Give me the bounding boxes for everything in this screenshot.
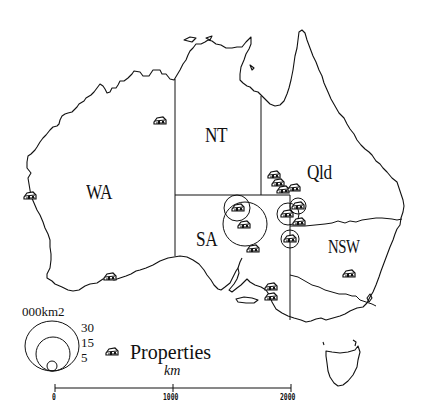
house-icon bbox=[106, 348, 118, 355]
house-icon[interactable] bbox=[238, 221, 250, 228]
state-label-sa: SA bbox=[196, 229, 217, 250]
state-label-wa: WA bbox=[86, 182, 112, 203]
scale-unit-label: km bbox=[164, 364, 180, 378]
house-icon[interactable] bbox=[268, 171, 280, 178]
house-icon[interactable] bbox=[281, 210, 293, 217]
house-icon[interactable] bbox=[284, 235, 296, 242]
house-icon[interactable] bbox=[104, 273, 116, 280]
house-icon[interactable] bbox=[272, 179, 284, 186]
house-icon[interactable] bbox=[265, 283, 277, 290]
legend-circles bbox=[25, 321, 79, 371]
scale-tick-2000: 2000 bbox=[280, 394, 295, 402]
legend-properties-label: Properties bbox=[130, 342, 211, 362]
house-icon[interactable] bbox=[293, 218, 305, 225]
state-label-qld: Qld bbox=[307, 162, 332, 183]
house-icon[interactable] bbox=[288, 184, 300, 191]
state-label-nsw: NSW bbox=[328, 238, 360, 256]
house-icon[interactable] bbox=[277, 186, 289, 193]
house-icon[interactable] bbox=[343, 270, 355, 277]
state-borders bbox=[175, 79, 402, 320]
legend-circle-5 bbox=[47, 361, 57, 371]
legend-circle-15 bbox=[36, 337, 70, 371]
legend-value-15: 15 bbox=[81, 336, 94, 349]
house-icon[interactable] bbox=[292, 202, 304, 209]
state-label-nt: NT bbox=[205, 125, 227, 146]
legend-circle-30 bbox=[25, 321, 79, 371]
australia-properties-map bbox=[0, 0, 425, 417]
legend-value-5: 5 bbox=[81, 351, 88, 364]
scale-tick-0: 0 bbox=[52, 394, 56, 402]
house-icon[interactable] bbox=[24, 192, 36, 199]
legend-value-30: 30 bbox=[81, 321, 94, 334]
scale-bar bbox=[55, 384, 291, 392]
house-icon[interactable] bbox=[154, 117, 166, 124]
legend-title: 000km2 bbox=[22, 305, 65, 318]
house-icon[interactable] bbox=[265, 293, 277, 300]
scale-tick-1000: 1000 bbox=[163, 394, 178, 402]
